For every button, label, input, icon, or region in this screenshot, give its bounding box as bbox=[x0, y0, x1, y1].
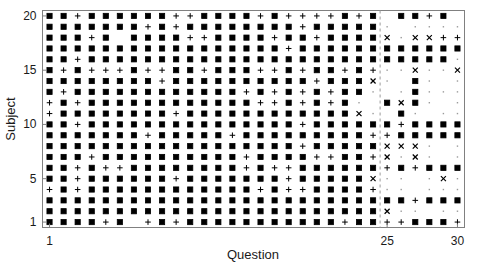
y-tick-label: 5 bbox=[30, 172, 37, 186]
figure-background bbox=[0, 0, 480, 271]
chart-figure: 12530 15101520 Question Subject bbox=[0, 0, 480, 271]
y-tick-label: 15 bbox=[23, 63, 37, 77]
x-tick-label: 1 bbox=[46, 234, 53, 248]
y-tick-label: 10 bbox=[23, 117, 37, 131]
y-tick-label: 1 bbox=[30, 215, 37, 229]
y-axis-label: Subject bbox=[3, 97, 18, 141]
scatter-matrix-plot: 12530 15101520 Question Subject bbox=[0, 0, 480, 271]
y-tick-label: 20 bbox=[23, 9, 37, 23]
x-axis-label: Question bbox=[227, 247, 279, 262]
x-tick-label: 30 bbox=[451, 234, 465, 248]
x-tick-label: 25 bbox=[380, 234, 394, 248]
